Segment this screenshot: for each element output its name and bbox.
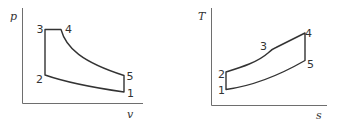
- thermodynamic-cycle-diagrams: p v 3 4 5 1 2 T s 1 2 3 4 5: [0, 0, 342, 127]
- pv-point-1-label: 1: [127, 87, 134, 100]
- ts-point-1-label: 1: [218, 84, 225, 97]
- pv-point-3-label: 3: [37, 23, 44, 36]
- ts-point-5-label: 5: [307, 58, 314, 71]
- pv-point-2-label: 2: [36, 73, 43, 86]
- pv-cycle-path: [45, 30, 124, 93]
- ts-diagram: T s 1 2 3 4 5: [198, 8, 327, 122]
- pv-point-4-label: 4: [65, 23, 72, 36]
- pv-y-axis-label: p: [10, 10, 17, 23]
- ts-y-axis-label: T: [198, 10, 207, 23]
- ts-point-4-label: 4: [305, 27, 312, 40]
- ts-x-axis-label: s: [316, 109, 322, 122]
- ts-point-3-label: 3: [260, 40, 267, 53]
- ts-point-2-label: 2: [218, 68, 225, 81]
- pv-point-5-label: 5: [127, 70, 134, 83]
- pv-diagram: p v 3 4 5 1 2: [10, 8, 143, 121]
- pv-x-axis-label: v: [127, 108, 134, 121]
